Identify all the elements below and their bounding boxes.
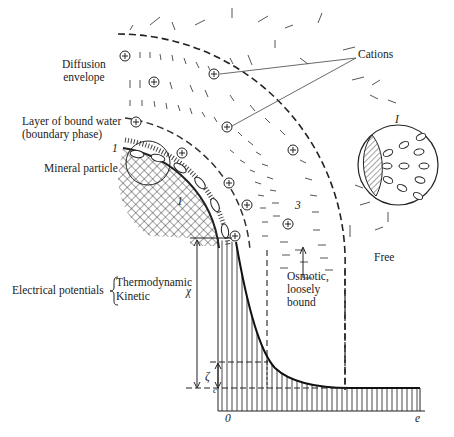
label-line: Osmotic, bbox=[287, 270, 329, 283]
osmotic-label: Osmotic, loosely bound bbox=[287, 270, 329, 309]
label-line: Diffusion bbox=[62, 58, 106, 71]
label-line: envelope bbox=[62, 71, 106, 84]
axis-end-label: e bbox=[415, 412, 420, 425]
zone-1-label: 1 bbox=[112, 142, 118, 155]
cation-icon bbox=[131, 117, 141, 127]
diffusion-envelope-label: Diffusion envelope bbox=[62, 58, 106, 84]
label-line: bound bbox=[287, 296, 329, 309]
cation-pointers bbox=[220, 58, 356, 126]
label-line: loosely bbox=[287, 283, 329, 296]
chi-label: χ bbox=[186, 285, 191, 298]
double-layer-diagram: Diffusion envelope Layer of bound water … bbox=[0, 0, 454, 437]
water-molecules bbox=[130, 8, 396, 278]
mineral-particle-label: Mineral particle bbox=[44, 162, 118, 175]
electrical-potentials-label: Electrical potentials bbox=[12, 284, 104, 297]
inset-label: I bbox=[395, 113, 399, 126]
label-line: (boundary phase) bbox=[22, 128, 121, 141]
cation-icon bbox=[224, 178, 234, 188]
mineral-particle bbox=[118, 148, 219, 248]
inset-detail bbox=[358, 125, 438, 205]
cation-icon bbox=[209, 69, 219, 79]
thermodynamic-label: Thermodynamic bbox=[116, 276, 192, 289]
cation-icon bbox=[288, 145, 298, 155]
cation-icon bbox=[242, 200, 252, 210]
cation-icon bbox=[230, 231, 240, 241]
axis-c-label: c bbox=[213, 384, 217, 397]
cation-icon bbox=[222, 122, 232, 132]
zeta-label: ζ bbox=[205, 370, 210, 383]
cation-icon bbox=[149, 77, 159, 87]
potential-plot bbox=[186, 238, 428, 413]
cation-icon bbox=[283, 219, 293, 229]
cation-icon bbox=[177, 148, 187, 158]
bound-water-label: Layer of bound water (boundary phase) bbox=[22, 115, 121, 141]
cation-icon bbox=[120, 51, 130, 61]
cations-label: Cations bbox=[358, 48, 393, 61]
axis-origin-label: 0 bbox=[225, 412, 231, 425]
free-label: Free bbox=[374, 251, 394, 264]
zone-3-label: 3 bbox=[295, 199, 301, 212]
zone-1-inner-label: 1 bbox=[177, 195, 183, 208]
label-line: Layer of bound water bbox=[22, 115, 121, 128]
kinetic-label: Kinetic bbox=[116, 290, 150, 303]
